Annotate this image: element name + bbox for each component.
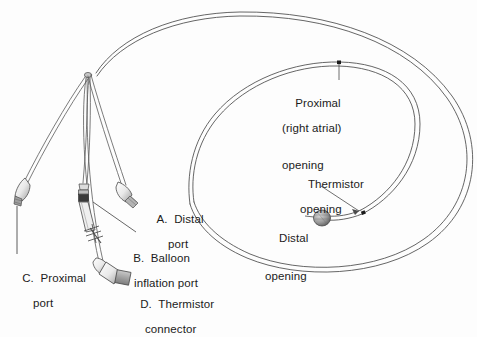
label-proximal-port-line1: C. Proximal: [22, 272, 86, 284]
distal-port-connector: [116, 182, 138, 208]
leader-balloon-port: [93, 202, 136, 232]
label-thermistor-connector: D. Thermistor connector: [127, 285, 214, 337]
label-proximal-opening-line2: (right atrial): [282, 122, 342, 135]
label-distal-opening: Distal opening: [265, 207, 308, 307]
proximal-opening-marker: [337, 61, 341, 65]
catheter-tube-bundle: [24, 72, 126, 262]
label-proximal-port-line2: port: [9, 297, 86, 310]
proximal-port-connector: [14, 178, 30, 254]
tube-to-distal-port: [88, 76, 122, 186]
label-distal-opening-line2: opening: [265, 270, 308, 283]
syringe-stopcock: [79, 195, 89, 202]
label-balloon-inflation-port-line1: B. Balloon: [133, 252, 190, 264]
label-thermistor-connector-line2: connector: [127, 323, 214, 336]
label-proximal-opening-line1: Proximal: [295, 97, 341, 109]
label-proximal-port: C. Proximal port: [9, 259, 86, 334]
tube-to-proximal-port: [24, 77, 85, 182]
label-thermistor-connector-line1: D. Thermistor: [140, 298, 214, 310]
label-distal-opening-line1: Distal: [265, 232, 308, 245]
label-thermistor-opening-line1: Thermistor: [308, 178, 364, 190]
label-distal-port-line1: A. Distal: [157, 213, 204, 225]
